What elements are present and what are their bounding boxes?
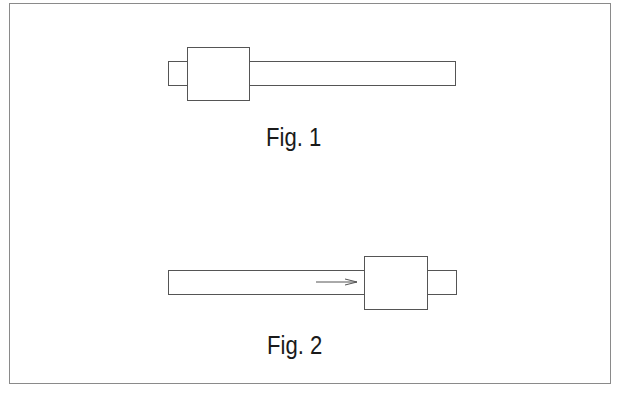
fig2-caption: Fig. 2 — [267, 330, 322, 361]
fig2-sliding-block — [364, 256, 428, 310]
